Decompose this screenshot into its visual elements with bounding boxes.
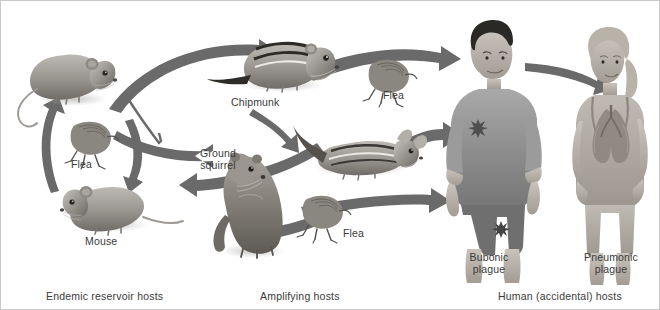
label-bubonic-line1: Bubonic [470, 251, 509, 263]
label-flea-bottom: Flea [343, 227, 364, 239]
label-ground-squirrel: Ground squirrel [191, 147, 245, 171]
organism-chipmunk-upright [207, 43, 339, 92]
organisms-layer [1, 1, 660, 310]
caption-amplifying-hosts: Amplifying hosts [260, 290, 340, 302]
label-ground-squirrel-line1: Ground [200, 147, 236, 159]
organism-mouse-lower [60, 186, 183, 235]
label-flea-endemic: Flea [71, 158, 92, 170]
label-bubonic-line2: plague [473, 263, 505, 275]
label-mouse: Mouse [85, 235, 117, 247]
label-pneumonic-line1: Pneumonic [584, 251, 638, 263]
organism-mouse-upper [18, 55, 117, 127]
caption-endemic-reservoir-hosts: Endemic reservoir hosts [46, 290, 163, 302]
label-flea-top: Flea [383, 89, 404, 101]
caption-human-accidental-hosts: Human (accidental) hosts [498, 290, 622, 302]
organism-woman-pneumonic [572, 27, 648, 285]
organism-chipmunk-prone [293, 125, 427, 180]
label-pneumonic-line2: plague [595, 263, 627, 275]
label-ground-squirrel-line2: squirrel [200, 159, 236, 171]
organism-man-bubonic [446, 20, 542, 283]
label-pneumonic-plague: Pneumonic plague [579, 251, 643, 275]
label-bubonic-plague: Bubonic plague [462, 251, 516, 275]
plague-transmission-diagram: Chipmunk Flea Flea Ground squirrel Mouse… [0, 0, 660, 310]
label-chipmunk: Chipmunk [231, 96, 279, 108]
